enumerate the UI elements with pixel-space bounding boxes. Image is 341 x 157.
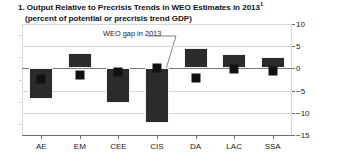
bar-cis xyxy=(145,68,169,123)
x-tick-ssa xyxy=(273,135,274,139)
y-tick-dash xyxy=(292,113,295,114)
x-label-cis: CIS xyxy=(150,142,163,151)
plot-frame-right xyxy=(291,24,292,135)
x-label-ae: AE xyxy=(36,142,47,151)
minor-tick xyxy=(19,80,21,81)
y-tick-dash xyxy=(292,135,295,136)
gridline-10 xyxy=(22,24,292,25)
chart-title-footnote-marker: 1 xyxy=(260,1,263,7)
weo-gap-marker-ssa xyxy=(268,67,277,76)
minor-tick xyxy=(19,57,21,58)
plot-area xyxy=(22,24,292,135)
weo-gap-marker-cis xyxy=(153,63,162,72)
weo-gap-marker-lac xyxy=(230,64,239,73)
title-block: 1. Output Relative to Precrisis Trends i… xyxy=(18,3,280,24)
y-tick-label: −10 xyxy=(296,108,310,117)
y-tick-dash xyxy=(292,91,295,92)
y-tick-label: −15 xyxy=(296,131,310,140)
bar-em xyxy=(68,53,92,69)
chart-panel: 1. Output Relative to Precrisis Trends i… xyxy=(0,0,341,157)
x-tick-cis xyxy=(157,135,158,139)
bar-da xyxy=(184,48,208,68)
chart-title: 1. Output Relative to Precrisis Trends i… xyxy=(18,3,280,14)
x-tick-cee xyxy=(118,135,119,139)
weo-gap-marker-ae xyxy=(37,74,46,83)
x-label-ssa: SSA xyxy=(265,142,281,151)
y-tick-label: −5 xyxy=(296,86,305,95)
x-label-da: DA xyxy=(190,142,201,151)
y-tick-label: 5 xyxy=(296,42,300,51)
x-tick-ae xyxy=(41,135,42,139)
x-tick-em xyxy=(80,135,81,139)
x-label-cee: CEE xyxy=(110,142,126,151)
minor-tick xyxy=(19,124,21,125)
minor-tick xyxy=(19,102,21,103)
weo-gap-marker-cee xyxy=(114,67,123,76)
bar-ae xyxy=(29,68,53,98)
y-tick-label: 10 xyxy=(296,20,305,29)
minor-tick xyxy=(19,35,21,36)
y-tick-dash xyxy=(292,46,295,47)
y-tick-dash xyxy=(292,24,295,25)
x-tick-da xyxy=(196,135,197,139)
x-label-em: EM xyxy=(74,142,86,151)
x-tick-lac xyxy=(234,135,235,139)
weo-gap-marker-em xyxy=(75,70,84,79)
y-tick-label: 0 xyxy=(296,64,300,73)
gridline-5 xyxy=(22,46,292,47)
chart-subtitle: (percent of potential or precrisis trend… xyxy=(18,14,280,25)
x-label-lac: LAC xyxy=(226,142,242,151)
chart-title-text: 1. Output Relative to Precrisis Trends i… xyxy=(18,3,260,12)
plot-frame-left xyxy=(22,24,23,135)
y-tick-dash xyxy=(292,68,295,69)
weo-gap-marker-da xyxy=(191,74,200,83)
